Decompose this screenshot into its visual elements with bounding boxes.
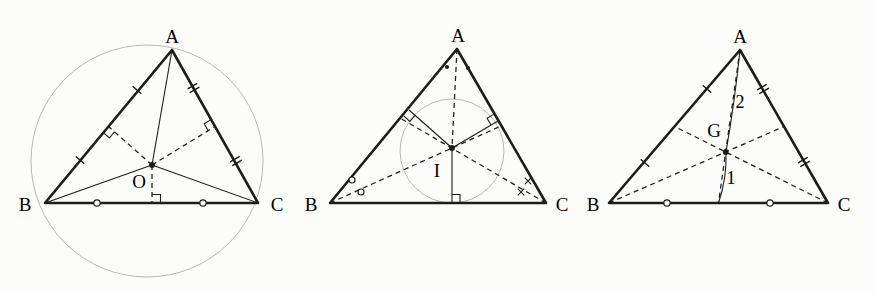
- angle-b-circle-icon: [349, 177, 355, 183]
- bc-circle-tick-icon: [767, 200, 773, 206]
- centroid-label: G: [707, 120, 721, 141]
- bisector-from-a: [452, 49, 457, 148]
- perpendicular-bisectors: [109, 127, 216, 204]
- triangle-outline: [45, 50, 258, 203]
- bc-circle-tick-icon: [94, 200, 100, 206]
- triangle-centers-diagram: A B C O: [0, 0, 876, 292]
- equal-segment-ticks: [641, 85, 809, 207]
- bisector-from-b: [330, 126, 501, 203]
- bisector-to-ab: [109, 127, 153, 166]
- ratio-lower-label: 1: [727, 168, 736, 188]
- vertex-c-label: C: [556, 194, 569, 215]
- angle-a-dot-icon: [466, 66, 470, 70]
- vertex-b-label: B: [19, 194, 32, 215]
- centroid-figure: A B C G 2 1: [587, 26, 851, 215]
- bisector-from-c: [400, 118, 546, 203]
- circumcenter-label: O: [132, 171, 146, 192]
- vertex-a-label: A: [733, 26, 747, 47]
- ratio-upper-label: 2: [736, 92, 745, 112]
- incenter-point: [449, 145, 455, 151]
- angle-c-cross-icon: [525, 178, 532, 185]
- vertex-a-label: A: [451, 25, 465, 46]
- vertex-c-label: C: [838, 194, 851, 215]
- circumcenter-figure: A B C O: [19, 26, 284, 277]
- vertex-b-label: B: [305, 194, 318, 215]
- vertex-a-label: A: [165, 26, 179, 47]
- bc-circle-tick-icon: [664, 200, 670, 206]
- angle-b-circle-icon: [358, 189, 364, 195]
- incenter-figure: A B C I: [305, 25, 569, 215]
- angle-a-dot-icon: [445, 65, 449, 69]
- centroid-point: [723, 149, 729, 155]
- circumcenter-point: [149, 162, 155, 168]
- bisector-to-ac: [152, 127, 215, 166]
- geometry-diagram-page: A B C O: [0, 0, 876, 292]
- right-angle-ac-icon: [204, 120, 211, 131]
- incenter-label: I: [434, 160, 440, 181]
- vertex-c-label: C: [271, 194, 284, 215]
- segment-center-to-c: [152, 165, 258, 203]
- vertex-b-label: B: [587, 194, 600, 215]
- perpendicular-to-ab: [409, 110, 452, 148]
- bc-circle-tick-icon: [200, 200, 206, 206]
- right-angle-ab-icon: [103, 132, 114, 138]
- angle-c-cross-icon: [518, 189, 525, 196]
- segment-center-to-a: [152, 50, 172, 165]
